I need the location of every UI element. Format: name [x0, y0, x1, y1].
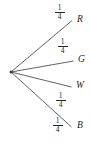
probability-label-g: 1 4: [57, 38, 68, 55]
fraction-numerator-b: 1: [52, 117, 63, 125]
fraction-numerator-g: 1: [57, 38, 68, 46]
probability-label-w: 1 4: [55, 92, 66, 109]
fraction-denominator-b: 4: [52, 126, 63, 134]
probability-label-b: 1 4: [52, 117, 63, 134]
fraction-numerator-r: 1: [54, 4, 65, 12]
probability-tree-diagram: 1 4 1 4 1 4 1 4 R G W B: [0, 0, 90, 142]
branch-line-w: [11, 72, 72, 87]
outcome-label-b: B: [77, 121, 83, 131]
root-node-dot: [10, 71, 13, 74]
outcome-label-r: R: [77, 15, 83, 25]
fraction-denominator-g: 4: [57, 47, 68, 55]
branch-line-g: [11, 61, 74, 72]
fraction-denominator-w: 4: [55, 101, 66, 109]
fraction-numerator-w: 1: [55, 92, 66, 100]
outcome-label-w: W: [76, 81, 84, 91]
outcome-label-g: G: [78, 55, 85, 65]
fraction-denominator-r: 4: [54, 13, 65, 21]
probability-label-r: 1 4: [54, 4, 65, 21]
